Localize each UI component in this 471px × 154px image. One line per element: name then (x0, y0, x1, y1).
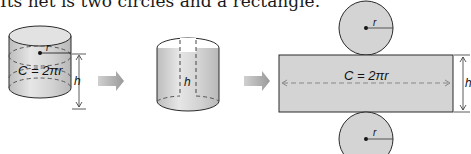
right-arrow-icon (244, 71, 270, 91)
net-height-label: h (465, 76, 471, 90)
circumference-label: C = 2πr (18, 63, 63, 78)
cylinder-net-diagram: r C = 2πr h h r C = 2πr (0, 0, 471, 154)
bottom-circle (339, 112, 393, 154)
cylinder-net: r C = 2πr h r (279, 1, 471, 154)
cut-cylinder: h (157, 38, 219, 111)
right-arrow-icon (98, 71, 124, 91)
rectangle-label: C = 2πr (344, 68, 389, 83)
height-label: h (184, 75, 191, 89)
cylinder: r C = 2πr h (9, 26, 86, 109)
height-label: h (74, 74, 81, 88)
